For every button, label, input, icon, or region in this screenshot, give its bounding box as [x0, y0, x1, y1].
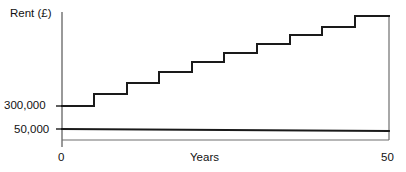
step-chart: Rent (£) 300,000 50,000 0 Years 50 — [0, 0, 406, 172]
baseline-series-line — [62, 129, 389, 131]
y-tick-label-50000: 50,000 — [14, 124, 49, 136]
rent-step-series-line — [62, 16, 389, 106]
y-tick-label-300000: 300,000 — [4, 100, 46, 112]
chart-plot-area — [0, 0, 406, 172]
x-tick-label-50: 50 — [381, 152, 394, 164]
x-axis-title: Years — [190, 152, 219, 164]
y-axis-title: Rent (£) — [10, 8, 52, 20]
x-tick-label-0: 0 — [58, 152, 64, 164]
